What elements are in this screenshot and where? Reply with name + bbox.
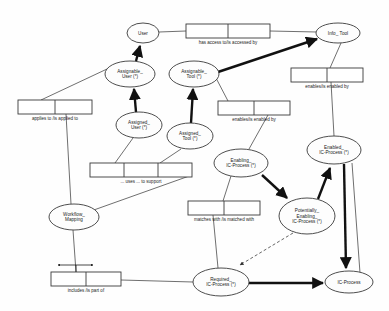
entity-assignable_tool[interactable]: Assignable_Tool (*)	[169, 61, 219, 87]
fact-type-label: applies to /is applied to	[32, 116, 78, 121]
entity-label-line: Potentially_	[295, 208, 320, 213]
entity-assigned_user[interactable]: Assigned_User (*)	[116, 112, 162, 138]
arrow-enablingicp-to-potentiallyenabling	[262, 175, 287, 198]
orm-diagram-canvas: has access to/is accessed byapplies to /…	[0, 0, 389, 311]
fact-type-applies_to[interactable]: applies to /is applied to	[18, 100, 92, 121]
entity-label-line: IC-Process (*)	[206, 282, 236, 287]
fact-type-label: enables/is enabled by	[305, 84, 349, 89]
entity-enabled_icp[interactable]: Enabled_IC-Process (*)	[307, 136, 361, 164]
connector-hasaccess-to-infotool	[270, 31, 317, 32]
fact-type-label: has access to/is accessed by	[199, 40, 258, 45]
fact-type-label: matches with /is matched with	[194, 217, 254, 222]
fact-type-label: enables/is enabled by	[232, 117, 276, 122]
entity-label-line: Mapping	[65, 217, 83, 222]
entity-assigned_tool[interactable]: Assigned_Tool (*)	[167, 123, 213, 149]
fact-type-includes[interactable]: includes /is part of	[51, 272, 121, 293]
entity-label-line: IC-Process (*)	[226, 163, 256, 168]
fact-type-has_access_to[interactable]: has access to/is accessed by	[186, 24, 270, 45]
entity-label-line: Required_	[210, 277, 232, 282]
entity-label-line: Enabling_	[231, 158, 252, 163]
constraint-potentiallyenabling-to-requiredicp	[240, 233, 293, 265]
arrow-assignedtool-to-assignabletool	[191, 89, 193, 123]
entity-user[interactable]: User	[127, 23, 159, 43]
connector-icprocess-to-enabledicp	[352, 163, 360, 273]
connector-user-to-hasaccess	[159, 31, 186, 32]
entity-label-line: User (*)	[131, 125, 148, 130]
connector-appliesto-to-workflow	[66, 114, 71, 204]
arrow-assignableuser-to-user	[136, 46, 140, 61]
fact-role-box	[90, 163, 192, 177]
connector-includes-to-requiredicp	[121, 280, 193, 282]
entity-label-line: Info_ Tool	[328, 31, 348, 36]
entity-info_tool[interactable]: Info_ Tool	[316, 23, 360, 43]
connector-assigneduser-to-usestosupport	[115, 138, 133, 163]
entity-label-line: User	[138, 31, 148, 36]
fact-type-enables_tool[interactable]: enables/is enabled by	[291, 68, 363, 89]
connector-matcheswith-to-requiredicp	[213, 215, 218, 268]
entity-enabling_icp[interactable]: Enabling_IC-Process (*)	[214, 149, 268, 177]
diagram-svg-surface: has access to/is accessed byapplies to /…	[0, 0, 389, 311]
entity-label-line: IC-Process (*)	[319, 150, 349, 155]
connector-assignabletool-to-enablesmid	[216, 78, 228, 101]
entity-workflow[interactable]: Workflow_Mapping	[49, 204, 99, 230]
connector-workflow-to-includes	[73, 230, 76, 272]
entity-label-line: Enabling_	[297, 214, 318, 219]
entity-label-line: Assigned_	[179, 131, 201, 136]
connector-enablestool-to-enabledicp	[331, 82, 334, 136]
entity-label-line: Assignable_	[181, 69, 207, 74]
entity-potentially_icp[interactable]: Potentially_Enabling_IC-Process (*)	[279, 198, 335, 234]
fact-type-label: ... uses ... to support	[121, 179, 163, 184]
entity-label-line: IC-Process	[337, 280, 361, 285]
entity-label-line: Assigned_	[128, 120, 150, 125]
connector-enablingicp-to-matcheswith	[223, 176, 231, 201]
fact-type-matches_with[interactable]: matches with /is matched with	[188, 201, 260, 222]
connector-assignableuser-to-appliesto	[41, 69, 107, 100]
entity-layer: UserInfo_ ToolAssignable_User (*)Assigna…	[49, 23, 373, 296]
connector-infotool-to-enablestool	[330, 43, 341, 68]
entity-assignable_user[interactable]: Assignable_User (*)	[105, 61, 155, 87]
arrow-enabledicp-to-icprocess	[344, 164, 346, 268]
entity-label-line: Enabled_	[324, 145, 344, 150]
entity-required_icp[interactable]: Required_IC-Process (*)	[193, 268, 249, 296]
fact-type-enables_mid[interactable]: enables/is enabled by	[218, 101, 290, 122]
entity-label-line: Tool (*)	[187, 74, 202, 79]
arrow-potentiallyenabling-to-enabledicp	[318, 168, 330, 199]
entity-label-line: Assignable_	[117, 69, 143, 74]
fact-type-label: includes /is part of	[68, 288, 105, 293]
entity-label-line: User (*)	[122, 74, 139, 79]
entity-label-line: Tool (*)	[183, 136, 198, 141]
arrow-assigneduser-to-assignableuser	[134, 89, 136, 112]
entity-ic_process[interactable]: IC-Process	[325, 271, 373, 293]
connector-group-dashed	[240, 233, 293, 265]
entity-label-line: IC-Process (*)	[292, 219, 322, 224]
connector-assignedtool-to-usestosupport	[160, 149, 181, 163]
entity-label-line: Workflow_	[63, 212, 85, 217]
